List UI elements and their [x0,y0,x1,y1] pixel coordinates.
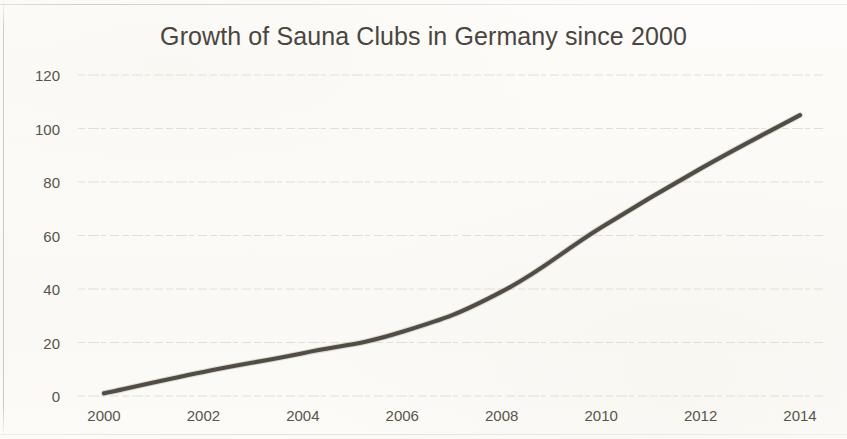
y-axis-tick-label: 20 [14,334,60,351]
data-line-halo [104,115,800,393]
y-axis-tick-label: 0 [14,388,60,405]
x-axis-tick-label: 2012 [666,407,736,424]
sauna-clubs-line-chart: Growth of Sauna Clubs in Germany since 2… [0,0,847,439]
x-axis-tick-label: 2006 [367,407,437,424]
x-axis-tick-label: 2000 [69,407,139,424]
data-line [104,115,800,393]
y-axis-tick-label: 100 [14,120,60,137]
plot-area [0,0,847,439]
x-axis-tick-label: 2010 [566,407,636,424]
data-series-group [104,115,800,393]
x-axis-tick-label: 2014 [765,407,835,424]
y-axis-tick-label: 60 [14,227,60,244]
x-axis-tick-label: 2004 [268,407,338,424]
x-axis-tick-label: 2008 [467,407,537,424]
x-axis-tick-label: 2002 [168,407,238,424]
gridlines-group [78,75,826,396]
y-axis-tick-label: 40 [14,281,60,298]
y-axis-tick-label: 120 [14,67,60,84]
y-axis-tick-label: 80 [14,174,60,191]
